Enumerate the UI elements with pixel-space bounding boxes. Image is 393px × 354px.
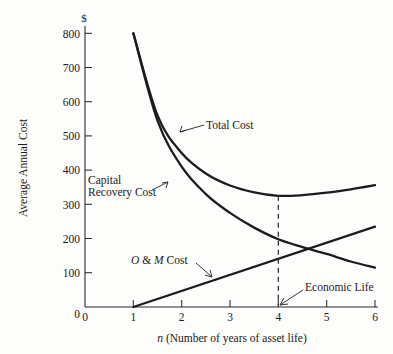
x-tick-label-4: 4 <box>275 311 281 323</box>
y-tick-label-500: 500 <box>63 130 81 142</box>
curve-total-cost <box>133 33 375 196</box>
x-axis-title: n (Number of years of asset life) <box>157 332 307 345</box>
x-axis-title-rest: (Number of years of asset life) <box>163 332 307 345</box>
x-tick-label-6: 6 <box>372 311 378 323</box>
axis-group <box>85 26 378 307</box>
y-tick-label-400: 400 <box>63 164 81 176</box>
x-tick-label-0: 0 <box>82 311 88 323</box>
y-tick-label-800: 800 <box>63 28 81 40</box>
label-om-cost-amp: & <box>139 254 154 266</box>
label-total-cost: Total Cost <box>206 119 254 131</box>
x-tick-labels: 0 1 2 3 4 5 6 <box>82 311 378 323</box>
x-tick-label-5: 5 <box>324 311 330 323</box>
x-tick-label-3: 3 <box>227 311 233 323</box>
chart-canvas: 800 700 600 500 400 300 200 100 0 $ Aver… <box>0 0 393 354</box>
x-tick-marks <box>133 300 375 307</box>
y-tick-marks <box>85 33 92 272</box>
y-tick-label-600: 600 <box>63 96 81 108</box>
label-om-cost: O & M Cost <box>131 254 188 266</box>
annotation-total-cost: Total Cost <box>180 119 254 132</box>
y-axis-unit-dollar: $ <box>81 12 87 24</box>
annotation-capital-recovery-cost: Capital Recovery Cost <box>88 174 168 199</box>
y-tick-label-200: 200 <box>63 233 81 245</box>
figure-container: 800 700 600 500 400 300 200 100 0 $ Aver… <box>0 0 393 354</box>
y-tick-labels: 800 700 600 500 400 300 200 100 0 <box>63 28 81 321</box>
y-tick-label-0: 0 <box>74 308 80 320</box>
x-tick-label-2: 2 <box>179 311 185 323</box>
curve-capital-recovery-cost <box>133 33 375 267</box>
label-om-cost-rest: Cost <box>164 254 189 266</box>
om-cost-leader-line <box>196 263 212 277</box>
total-cost-arrow-head <box>180 126 186 132</box>
y-tick-label-700: 700 <box>63 62 81 74</box>
annotation-om-cost: O & M Cost <box>131 254 212 277</box>
economic-life-leader-line <box>280 290 303 305</box>
y-tick-label-300: 300 <box>63 199 81 211</box>
y-tick-label-100: 100 <box>63 267 81 279</box>
curve-om-cost <box>133 227 375 307</box>
y-axis-title: Average Annual Cost <box>17 118 30 217</box>
x-tick-label-1: 1 <box>130 311 136 323</box>
label-capital-recovery-line2: Recovery Cost <box>88 186 157 199</box>
label-economic-life: Economic Life <box>305 281 374 293</box>
